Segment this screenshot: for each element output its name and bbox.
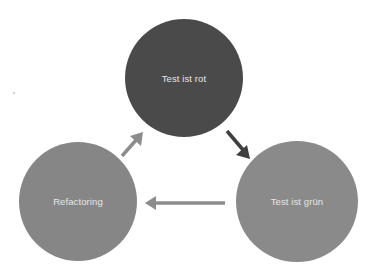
tdd-cycle-diagram: Test ist rot Test ist grün Refactoring: [0, 0, 370, 278]
arrow-green-to-refactoring-icon: [145, 196, 225, 210]
arrows-layer: [0, 0, 370, 278]
arrow-refactoring-to-red-icon: [122, 132, 143, 156]
arrow-red-to-green-icon: [227, 131, 250, 159]
